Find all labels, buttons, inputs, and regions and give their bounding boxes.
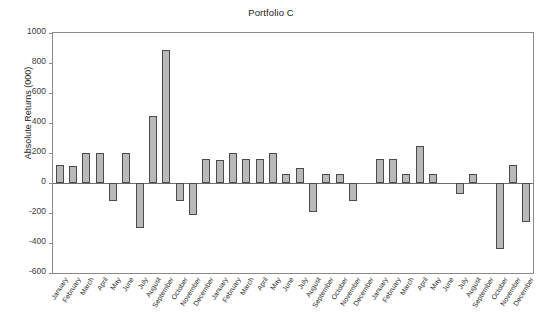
bar xyxy=(429,174,437,183)
bar xyxy=(229,153,237,183)
bar xyxy=(296,168,304,183)
bar xyxy=(336,174,344,183)
bar xyxy=(109,183,117,201)
y-tick-label: 400 xyxy=(12,117,46,126)
bar xyxy=(149,116,157,184)
bar xyxy=(402,174,410,183)
y-tick-mark xyxy=(49,63,53,64)
plot-area xyxy=(52,32,534,274)
y-tick-label: 600 xyxy=(12,87,46,96)
bar xyxy=(96,153,104,183)
y-tick-label: 1000 xyxy=(12,27,46,36)
bar xyxy=(82,153,90,183)
y-tick-mark xyxy=(49,123,53,124)
bar xyxy=(242,159,250,183)
y-tick-label: 200 xyxy=(12,147,46,156)
bar xyxy=(376,159,384,183)
bar xyxy=(389,159,397,183)
y-tick-mark xyxy=(49,213,53,214)
bar xyxy=(216,160,224,183)
bar xyxy=(256,159,264,183)
bar xyxy=(176,183,184,201)
bar xyxy=(496,183,504,249)
bar xyxy=(56,165,64,183)
y-tick-mark xyxy=(49,93,53,94)
bar xyxy=(269,153,277,183)
y-tick-label: 800 xyxy=(12,57,46,66)
y-axis-tick-labels: 10008006004002000-200-400-600 xyxy=(10,0,46,312)
bar xyxy=(282,174,290,183)
bar xyxy=(322,174,330,183)
bar xyxy=(509,165,517,183)
y-tick-mark xyxy=(49,183,53,184)
y-tick-label: -200 xyxy=(12,207,46,216)
bar xyxy=(416,146,424,184)
bar xyxy=(469,174,477,183)
y-tick-label: -400 xyxy=(12,237,46,246)
bar xyxy=(122,153,130,183)
chart-container: Portfolio C Absolute Returns (000) 10008… xyxy=(0,0,542,312)
bar xyxy=(202,159,210,183)
bar xyxy=(162,50,170,184)
y-tick-mark xyxy=(49,243,53,244)
y-tick-label: -600 xyxy=(12,267,46,276)
bar xyxy=(456,183,464,194)
y-tick-mark xyxy=(49,153,53,154)
bar xyxy=(136,183,144,228)
bar xyxy=(189,183,197,215)
x-axis-tick-labels: JanuaryFebruaryMarchAprilMayJuneJulyAugu… xyxy=(52,274,534,312)
y-tick-mark xyxy=(49,33,53,34)
bar xyxy=(309,183,317,212)
bar xyxy=(349,183,357,201)
bar xyxy=(522,183,530,222)
y-tick-label: 0 xyxy=(12,177,46,186)
bar xyxy=(69,166,77,183)
chart-title: Portfolio C xyxy=(0,7,542,18)
